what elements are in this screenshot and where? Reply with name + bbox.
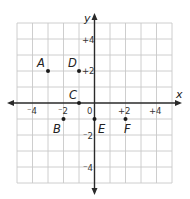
coordinate-plane: y x ⁻4 ⁻2 0 +2 +4 +4 +2 ⁻2 ⁻4 A D C B E … (0, 0, 190, 199)
point-E-dot (93, 117, 97, 121)
point-D-label: D (68, 56, 77, 70)
y-tick-pos2: +2 (82, 66, 95, 76)
point-A-dot (46, 69, 50, 73)
x-axis-label: x (175, 88, 183, 101)
x-tick-neg2: ⁻2 (58, 106, 68, 116)
point-F-dot (124, 117, 128, 121)
point-F: F (124, 117, 132, 136)
y-axis-down-arrow-icon (92, 188, 98, 195)
point-C-label: C (69, 88, 77, 102)
point-B-dot (62, 117, 66, 121)
point-D-dot (77, 69, 81, 73)
point-A-label: A (36, 56, 45, 70)
y-tick-neg2: ⁻2 (83, 131, 93, 141)
y-axis-label: y (83, 12, 91, 25)
x-tick-pos2: +2 (118, 106, 131, 116)
x-tick-zero: 0 (87, 106, 92, 116)
point-B-label: B (53, 122, 61, 136)
x-tick-neg4: ⁻4 (27, 106, 37, 116)
point-F-label: F (124, 122, 131, 136)
point-E-label: E (98, 122, 106, 136)
y-tick-pos4: +4 (82, 35, 95, 45)
point-C-dot (77, 101, 81, 105)
y-axis-up-arrow-icon (92, 13, 98, 20)
x-axis-left-arrow-icon (7, 100, 14, 106)
x-tick-pos4: +4 (149, 106, 162, 116)
y-tick-neg4: ⁻4 (83, 163, 93, 173)
